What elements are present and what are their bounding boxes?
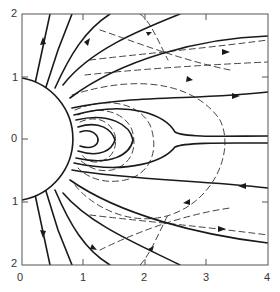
x-tick-label-0: 0 [17,272,23,283]
y-tick-label-bottom: 2 [11,258,17,269]
x-tick-label-4: 4 [264,272,270,283]
y-tick-label-top: 2 [11,8,17,19]
sphere [22,78,73,200]
y-tick-label-0: 0 [11,133,17,144]
y-tick-label-1-upper: 1 [12,72,18,83]
x-tick-label-2: 2 [141,272,147,283]
streamline-diagram [0,0,280,292]
x-tick-label-1: 1 [80,272,86,283]
x-tick-label-3: 3 [203,272,209,283]
y-tick-label-1-lower: 1 [12,196,18,207]
